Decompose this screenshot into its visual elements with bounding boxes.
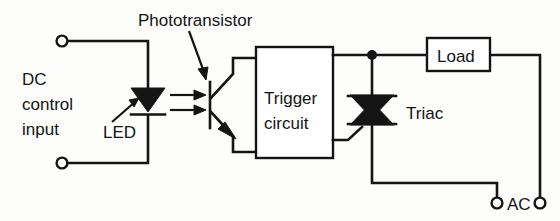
- ac-terminal-left[interactable]: [492, 198, 503, 209]
- input-terminal-top[interactable]: [57, 36, 68, 47]
- led-pointer-arrow-icon: [112, 98, 139, 122]
- input-terminal-bottom[interactable]: [57, 158, 68, 169]
- triac-symbol: [348, 95, 396, 125]
- dc-control-input-label-line1: DC: [22, 70, 47, 89]
- trigger-circuit-label-line1: Trigger: [264, 89, 318, 108]
- triac-label: Triac: [406, 104, 444, 123]
- phototransistor-collector-lead: [211, 58, 257, 98]
- dc-control-input-label-line2: control: [22, 95, 73, 114]
- phototransistor-label: Phototransistor: [138, 11, 253, 30]
- wire-trigger-gate-to-triac: [333, 127, 362, 140]
- wire-input-top: [68, 41, 148, 88]
- junction-dot: [367, 50, 377, 60]
- phototransistor-emitter-lead: [211, 112, 257, 152]
- circuit-schematic-svg: Phototransistor DC control input LED Tri…: [0, 0, 560, 221]
- load-label: Load: [437, 47, 475, 66]
- phototransistor-symbol: [210, 58, 257, 152]
- ac-label: AC: [507, 195, 531, 214]
- ac-terminal-right[interactable]: [535, 198, 546, 209]
- circuit-diagram: Phototransistor DC control input LED Tri…: [0, 0, 560, 221]
- light-coupling-arrows-icon: [170, 90, 206, 115]
- led-label: LED: [103, 123, 136, 142]
- wire-load-to-ac-right: [490, 55, 540, 197]
- triac-triangle-lower-icon: [350, 102, 394, 125]
- phototransistor-emitter-arrow-icon: [218, 122, 236, 139]
- wire-triac-to-ac-left: [372, 125, 497, 197]
- trigger-circuit-label-line2: circuit: [264, 114, 309, 133]
- phototransistor-pointer-arrow-icon: [189, 31, 208, 80]
- power-loop-wiring: [333, 55, 540, 197]
- dc-control-input-label-line3: input: [22, 120, 59, 139]
